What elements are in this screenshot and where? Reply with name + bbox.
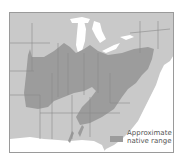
legend-label: Approximate native range: [127, 129, 172, 145]
legend-line-2: native range: [127, 137, 172, 145]
map-legend: Approximate native range: [108, 128, 172, 150]
legend-line-1: Approximate: [127, 129, 172, 137]
legend-swatch-range: [110, 136, 123, 142]
